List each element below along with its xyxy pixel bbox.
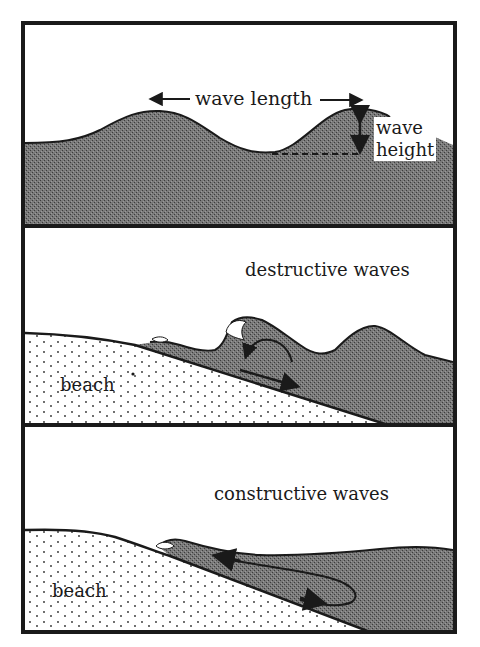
destructive-waves-title: destructive waves <box>245 261 410 279</box>
pebble <box>131 372 134 375</box>
beach-label-constructive: beach <box>52 582 107 600</box>
swash-foam <box>156 542 174 549</box>
constructive-waves-title: constructive waves <box>214 485 389 503</box>
wave-height-label: wave height <box>374 117 436 161</box>
wave-height-label-line2: height <box>376 139 434 161</box>
panel-destructive <box>25 317 453 424</box>
beach-label-destructive: beach <box>60 376 115 394</box>
wave-height-label-line1: wave <box>376 117 434 139</box>
wave-length-label: wave length <box>195 89 312 108</box>
